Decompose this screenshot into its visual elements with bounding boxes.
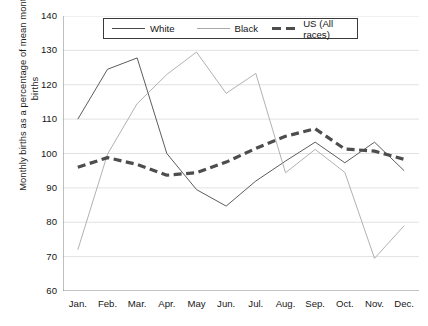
y-axis-tick-label: 120 (17, 78, 57, 89)
y-axis-tick-label: 130 (17, 44, 57, 55)
y-axis-tick-label: 140 (17, 10, 57, 21)
legend-item-us: US (All races) (272, 18, 357, 40)
legend-line-us-dashed-icon (272, 27, 300, 30)
chart-legend: White Black US (All races) (103, 18, 358, 39)
plot-area: 14013012011010090807060 Jan.Feb.Mar.Apr.… (63, 16, 419, 291)
y-axis-tick-label: 80 (17, 216, 57, 227)
legend-label-black: Black (235, 23, 258, 34)
legend-label-us: US (All races) (303, 18, 357, 40)
x-axis-tick-label-dec: Dec. (381, 298, 427, 309)
legend-line-black-icon (197, 28, 230, 29)
y-axis-title: Monthly births as a percentage of mean m… (17, 0, 40, 209)
series-line-us-all-races (78, 129, 404, 175)
y-axis-tick-label: 70 (17, 250, 57, 261)
plot-svg (63, 16, 419, 291)
legend-line-white-icon (112, 28, 145, 29)
y-axis-tick-label: 110 (17, 113, 57, 124)
legend-item-white: White (112, 23, 175, 34)
y-axis-tick-label: 90 (17, 181, 57, 192)
chart-figure: Monthly births as a percentage of mean m… (0, 0, 428, 326)
legend-item-black: Black (197, 23, 258, 34)
y-axis-tick-label: 60 (17, 285, 57, 296)
legend-label-white: White (150, 23, 175, 34)
y-axis-tick-label: 100 (17, 147, 57, 158)
y-axis-title-line1: Monthly births as a percentage of mean m… (17, 0, 28, 191)
series-line-white (78, 58, 404, 206)
